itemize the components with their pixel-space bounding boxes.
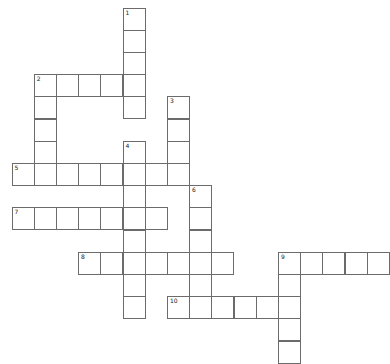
crossword-cell[interactable] [123,296,146,319]
crossword-cell[interactable]: 3 [167,96,190,119]
crossword-cell[interactable] [56,163,79,186]
crossword-cell[interactable] [189,252,212,275]
crossword-cell[interactable] [123,252,146,275]
crossword-cell[interactable] [123,30,146,53]
crossword-cell[interactable] [189,230,212,253]
crossword-cell[interactable]: 5 [12,163,35,186]
crossword-cell[interactable] [167,141,190,164]
clue-number: 7 [15,209,19,215]
crossword-cell[interactable] [189,296,212,319]
crossword-cell[interactable] [100,74,123,97]
crossword-cell[interactable] [234,296,257,319]
crossword-cell[interactable] [56,207,79,230]
crossword-cell[interactable] [278,341,301,364]
crossword-cell[interactable] [145,252,168,275]
clue-number: 6 [192,187,196,193]
crossword-cell[interactable] [367,252,390,275]
crossword-cell[interactable] [211,252,234,275]
crossword-cell[interactable] [189,274,212,297]
crossword-cell[interactable] [167,119,190,142]
crossword-cell[interactable] [78,207,101,230]
crossword-cell[interactable] [278,318,301,341]
crossword-cell[interactable]: 9 [278,252,301,275]
crossword-cell[interactable] [78,74,101,97]
crossword-cell[interactable] [34,207,57,230]
crossword-cell[interactable] [123,74,146,97]
crossword-cell[interactable] [123,207,146,230]
crossword-cell[interactable]: 4 [123,141,146,164]
crossword-cell[interactable] [123,163,146,186]
crossword-cell[interactable] [123,96,146,119]
crossword-cell[interactable] [278,274,301,297]
crossword-cell[interactable]: 1 [123,8,146,31]
crossword-cell[interactable] [100,163,123,186]
crossword-cell[interactable] [34,141,57,164]
clue-number: 9 [281,254,285,260]
crossword-cell[interactable] [34,163,57,186]
crossword-cell[interactable] [145,163,168,186]
crossword-cell[interactable] [123,52,146,75]
crossword-cell[interactable] [78,163,101,186]
crossword-cell[interactable] [100,252,123,275]
crossword-cell[interactable]: 8 [78,252,101,275]
crossword-cell[interactable] [145,207,168,230]
crossword-cell[interactable] [34,119,57,142]
crossword-cell[interactable] [278,296,301,319]
crossword-cell[interactable] [123,185,146,208]
crossword-cell[interactable] [300,252,323,275]
crossword-cell[interactable] [123,274,146,297]
clue-number: 5 [15,165,19,171]
crossword-cell[interactable] [256,296,279,319]
clue-number: 3 [170,98,174,104]
clue-number: 1 [126,10,130,16]
clue-number: 2 [37,76,41,82]
crossword-cell[interactable]: 7 [12,207,35,230]
crossword-cell[interactable] [100,207,123,230]
crossword-cell[interactable]: 2 [34,74,57,97]
crossword-cell[interactable] [322,252,345,275]
clue-number: 8 [81,254,85,260]
crossword-cell[interactable] [56,74,79,97]
crossword-cell[interactable] [167,163,190,186]
clue-number: 10 [170,298,178,304]
clue-number: 4 [126,143,130,149]
crossword-cell[interactable] [189,207,212,230]
crossword-cell[interactable] [345,252,368,275]
crossword-cell[interactable] [34,96,57,119]
crossword-cell[interactable] [123,230,146,253]
crossword-cell[interactable] [211,296,234,319]
crossword-cell[interactable]: 6 [189,185,212,208]
crossword-cell[interactable] [167,252,190,275]
crossword-cell[interactable]: 10 [167,296,190,319]
